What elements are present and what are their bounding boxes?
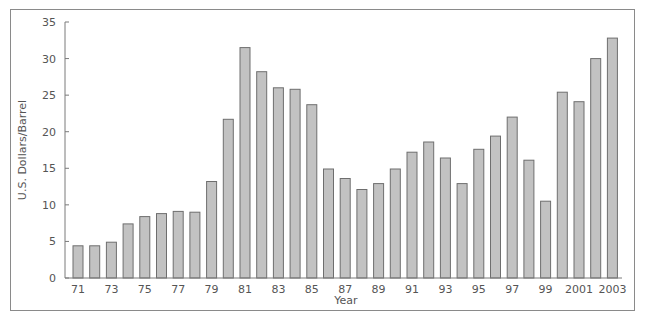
bar-1988 bbox=[357, 190, 367, 279]
bar-1993 bbox=[440, 158, 450, 278]
bar-1992 bbox=[424, 142, 434, 278]
bar-1989 bbox=[374, 184, 384, 278]
x-tick-label: 75 bbox=[138, 283, 152, 296]
x-tick-label: 71 bbox=[71, 283, 85, 296]
bar-1976 bbox=[157, 214, 167, 278]
bar-2002 bbox=[591, 59, 601, 278]
bar-1991 bbox=[407, 152, 417, 278]
y-tick-label: 5 bbox=[49, 235, 56, 248]
x-tick-label: 77 bbox=[171, 283, 185, 296]
bar-1975 bbox=[140, 217, 150, 278]
bar-1986 bbox=[324, 169, 334, 278]
x-tick-label: 91 bbox=[405, 283, 419, 296]
x-tick-label: 81 bbox=[238, 283, 252, 296]
y-tick-label: 15 bbox=[42, 162, 56, 175]
bar-1980 bbox=[223, 119, 233, 278]
bar-1987 bbox=[340, 179, 350, 279]
x-tick-label: 99 bbox=[539, 283, 553, 296]
bar-1999 bbox=[541, 201, 551, 278]
bar-1997 bbox=[507, 117, 517, 278]
x-tick-label: 2001 bbox=[565, 283, 593, 296]
bar-2000 bbox=[557, 92, 567, 278]
bar-1983 bbox=[273, 88, 283, 278]
y-tick-label: 30 bbox=[42, 53, 56, 66]
y-tick-label: 25 bbox=[42, 89, 56, 102]
bar-2003 bbox=[607, 38, 617, 278]
bars bbox=[73, 38, 617, 278]
bar-1998 bbox=[524, 160, 534, 278]
x-tick-label: 89 bbox=[372, 283, 386, 296]
y-tick-label: 10 bbox=[42, 199, 56, 212]
bar-1982 bbox=[257, 72, 267, 278]
y-tick-label: 35 bbox=[42, 16, 56, 29]
bar-1971 bbox=[73, 246, 83, 278]
bar-1972 bbox=[90, 246, 100, 278]
y-tick-label: 0 bbox=[49, 272, 56, 285]
bar-1974 bbox=[123, 224, 133, 278]
x-tick-label: 83 bbox=[271, 283, 285, 296]
y-tick-label: 20 bbox=[42, 126, 56, 139]
bar-1994 bbox=[457, 184, 467, 278]
x-tick-label: 95 bbox=[472, 283, 486, 296]
x-tick-label: 2003 bbox=[598, 283, 626, 296]
bar-1990 bbox=[390, 169, 400, 278]
x-tick-label: 79 bbox=[205, 283, 219, 296]
bar-1977 bbox=[173, 211, 183, 278]
x-tick-label: 97 bbox=[505, 283, 519, 296]
bar-1979 bbox=[207, 182, 217, 279]
bar-chart: 05101520253035 7173757779818385878991939… bbox=[0, 0, 645, 323]
bar-1996 bbox=[491, 136, 501, 278]
x-axis-title: Year bbox=[333, 294, 358, 307]
x-tick-label: 73 bbox=[104, 283, 118, 296]
bar-2001 bbox=[574, 102, 584, 278]
x-tick-label: 85 bbox=[305, 283, 319, 296]
y-axis-title: U.S. Dollars/Barrel bbox=[16, 100, 29, 200]
bar-1984 bbox=[290, 89, 300, 278]
bar-1981 bbox=[240, 48, 250, 278]
bar-1995 bbox=[474, 149, 484, 278]
x-tick-label: 93 bbox=[438, 283, 452, 296]
bar-1973 bbox=[106, 242, 116, 278]
bar-1978 bbox=[190, 212, 200, 278]
bar-1985 bbox=[307, 105, 317, 278]
